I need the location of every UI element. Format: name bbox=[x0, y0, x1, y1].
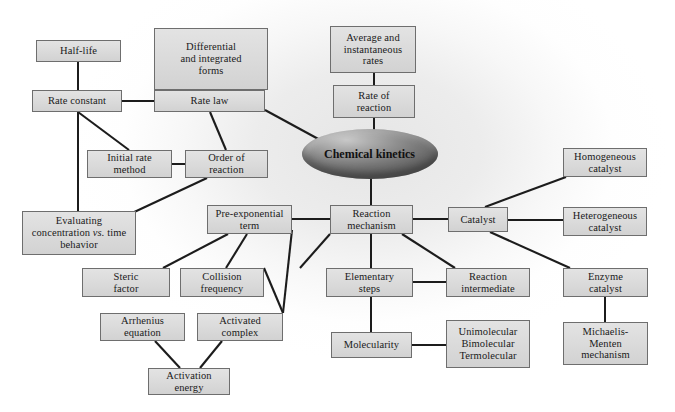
node-differential-label-line2: and integrated bbox=[180, 53, 241, 65]
node-homogeneous-label-line2: catalyst bbox=[574, 163, 636, 175]
node-evaluating-label-line2: concentration vs. time bbox=[32, 227, 127, 239]
node-evaluating[interactable]: Evaluatingconcentration vs. timebehavior bbox=[22, 211, 136, 255]
node-catalyst[interactable]: Catalyst bbox=[448, 207, 508, 232]
node-elementary-steps-label-line1: Elementary bbox=[345, 271, 394, 283]
node-activation-energy-label-line1: Activation bbox=[166, 370, 211, 382]
node-initial-rate[interactable]: Initial ratemethod bbox=[87, 150, 172, 178]
node-michaelis-menten-label-line3: mechanism bbox=[581, 349, 630, 361]
node-homogeneous-label-line1: Homogeneous bbox=[574, 151, 636, 163]
center-node-label-line1: Chemical bbox=[324, 147, 373, 161]
node-half-life-label-line1: Half-life bbox=[60, 45, 97, 57]
edge-rate-law-to-order-of-reaction bbox=[210, 112, 226, 150]
edge-activated-complex-to-activation-energy bbox=[200, 341, 222, 368]
node-enzyme-catalyst-label-line2: catalyst bbox=[588, 283, 623, 295]
node-steric-factor-label-line1: Steric bbox=[113, 271, 138, 283]
center-node-chemical-kinetics[interactable]: Chemical kinetics bbox=[302, 129, 438, 179]
node-order-of-reaction-label-line1: Order of bbox=[208, 152, 245, 164]
node-rate-law-label-line1: Rate law bbox=[191, 95, 229, 107]
center-node-label-line2: kinetics bbox=[376, 147, 415, 161]
node-catalyst-label-line1: Catalyst bbox=[460, 214, 495, 226]
node-order-of-reaction[interactable]: Order ofreaction bbox=[185, 150, 268, 178]
node-activation-energy[interactable]: Activationenergy bbox=[148, 368, 230, 395]
node-arrhenius-label-line2: equation bbox=[121, 327, 164, 339]
node-molecularity[interactable]: Molecularity bbox=[331, 332, 412, 358]
node-reaction-inter-label-line1: Reaction bbox=[461, 271, 515, 283]
edge-pre-exp-diag-to-activated-complex bbox=[283, 230, 292, 313]
node-michaelis-menten[interactable]: Michaelis-Mentenmechanism bbox=[563, 322, 648, 365]
node-activated-complex[interactable]: Activatedcomplex bbox=[197, 313, 283, 341]
node-molecularity-types[interactable]: UnimolecularBimolecularTermolecular bbox=[446, 320, 530, 368]
node-steric-factor-label-line2: factor bbox=[113, 283, 138, 295]
node-average-rates[interactable]: Average andinstantaneousrates bbox=[330, 26, 416, 73]
node-initial-rate-label-line2: method bbox=[107, 164, 152, 176]
node-reaction-inter[interactable]: Reactionintermediate bbox=[446, 268, 530, 297]
node-activated-complex-label-line2: complex bbox=[219, 327, 261, 339]
node-rate-of-reaction-label-line2: reaction bbox=[357, 102, 392, 114]
edge-pre-exponential-to-steric-factor bbox=[163, 234, 228, 268]
node-heterogeneous[interactable]: Heterogeneouscatalyst bbox=[563, 207, 647, 236]
edge-pre-exponential-to-collision-freq bbox=[226, 234, 247, 268]
node-pre-exponential[interactable]: Pre-exponentialterm bbox=[207, 205, 292, 234]
node-rate-constant-label-line1: Rate constant bbox=[48, 95, 106, 107]
node-collision-freq-label-line2: frequency bbox=[201, 283, 244, 295]
node-reaction-mech-label-line1: Reaction bbox=[347, 208, 396, 220]
node-enzyme-catalyst-label-line1: Enzyme bbox=[588, 271, 623, 283]
node-rate-of-reaction[interactable]: Rate ofreaction bbox=[333, 85, 415, 118]
node-molecularity-types-label-line1: Unimolecular bbox=[459, 326, 518, 338]
node-arrhenius-label-line1: Arrhenius bbox=[121, 315, 164, 327]
node-pre-exponential-label-line1: Pre-exponential bbox=[216, 208, 284, 220]
node-activation-energy-label-line2: energy bbox=[166, 382, 211, 394]
edge-catalyst-to-homogeneous bbox=[485, 177, 566, 207]
node-rate-constant[interactable]: Rate constant bbox=[32, 90, 122, 112]
node-steric-factor[interactable]: Stericfactor bbox=[82, 268, 170, 297]
node-average-rates-label-line2: instantaneous bbox=[344, 44, 402, 56]
edge-reaction-mech-to-reaction-inter bbox=[402, 234, 455, 268]
edge-rate-constant-to-initial-rate bbox=[78, 112, 129, 150]
node-differential[interactable]: Differentialand integratedforms bbox=[154, 28, 268, 90]
node-reaction-inter-label-line2: intermediate bbox=[461, 283, 515, 295]
edge-rate-law-to-center bbox=[265, 110, 322, 141]
node-rate-law[interactable]: Rate law bbox=[154, 90, 265, 112]
node-initial-rate-label-line1: Initial rate bbox=[107, 152, 152, 164]
node-activated-complex-label-line1: Activated bbox=[219, 315, 261, 327]
node-arrhenius[interactable]: Arrheniusequation bbox=[100, 313, 185, 341]
node-average-rates-label-line1: Average and bbox=[344, 32, 402, 44]
node-pre-exponential-label-line2: term bbox=[216, 220, 284, 232]
node-molecularity-types-label-line3: Termolecular bbox=[459, 350, 518, 362]
node-average-rates-label-line3: rates bbox=[344, 55, 402, 67]
node-reaction-mech[interactable]: Reactionmechanism bbox=[330, 205, 413, 234]
node-rate-of-reaction-label-line1: Rate of bbox=[357, 90, 392, 102]
node-elementary-steps[interactable]: Elementarysteps bbox=[326, 268, 413, 297]
node-reaction-mech-label-line2: mechanism bbox=[347, 220, 396, 232]
node-evaluating-label-line3: behavior bbox=[32, 239, 127, 251]
node-collision-freq[interactable]: Collisionfrequency bbox=[180, 268, 264, 297]
node-molecularity-label-line1: Molecularity bbox=[344, 339, 399, 351]
node-evaluating-label-line1: Evaluating bbox=[32, 215, 127, 227]
edge-catalyst-to-enzyme-catalyst bbox=[490, 232, 570, 268]
node-differential-label-line1: Differential bbox=[180, 41, 241, 53]
edge-reaction-mech-to-pre-exp-left bbox=[300, 234, 330, 268]
node-collision-freq-label-line1: Collision bbox=[201, 271, 244, 283]
node-heterogeneous-label-line2: catalyst bbox=[573, 222, 637, 234]
node-michaelis-menten-label-line2: Menten bbox=[581, 338, 630, 350]
edge-order-of-reaction-to-evaluating bbox=[130, 178, 207, 214]
node-homogeneous[interactable]: Homogeneouscatalyst bbox=[563, 148, 647, 177]
node-order-of-reaction-label-line2: reaction bbox=[208, 164, 245, 176]
node-molecularity-types-label-line2: Bimolecular bbox=[459, 338, 518, 350]
concept-map-diagram: Half-lifeDifferentialand integratedforms… bbox=[0, 0, 675, 412]
node-elementary-steps-label-line2: steps bbox=[345, 283, 394, 295]
node-enzyme-catalyst[interactable]: Enzymecatalyst bbox=[563, 268, 648, 297]
node-heterogeneous-label-line1: Heterogeneous bbox=[573, 210, 637, 222]
edge-collision-freq-to-activated-complex bbox=[264, 268, 283, 313]
edge-arrhenius-to-activation-energy bbox=[155, 341, 180, 368]
node-michaelis-menten-label-line1: Michaelis- bbox=[581, 326, 630, 338]
node-differential-label-line3: forms bbox=[180, 65, 241, 77]
node-half-life[interactable]: Half-life bbox=[36, 40, 121, 62]
